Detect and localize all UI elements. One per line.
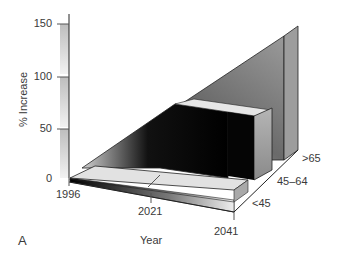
- x-tick-2021: 2021: [138, 205, 162, 217]
- series-4564-side: [254, 108, 272, 180]
- y-gradient-bar: [60, 24, 69, 74]
- panel-label: A: [18, 233, 27, 248]
- y-axis-label: % Increase: [17, 72, 29, 127]
- x-axis-label: Year: [140, 234, 162, 246]
- depth-label-lt45: <45: [252, 197, 271, 209]
- y-tick-150: 150: [22, 17, 52, 29]
- depth-label-gt65: >65: [302, 152, 321, 164]
- y-tick-0: 0: [22, 172, 52, 184]
- depth-label-4564: 45–64: [277, 175, 308, 187]
- series-gt65-side: [284, 26, 298, 160]
- x-tick-1996: 1996: [56, 188, 80, 200]
- x-tick-2041: 2041: [214, 225, 238, 237]
